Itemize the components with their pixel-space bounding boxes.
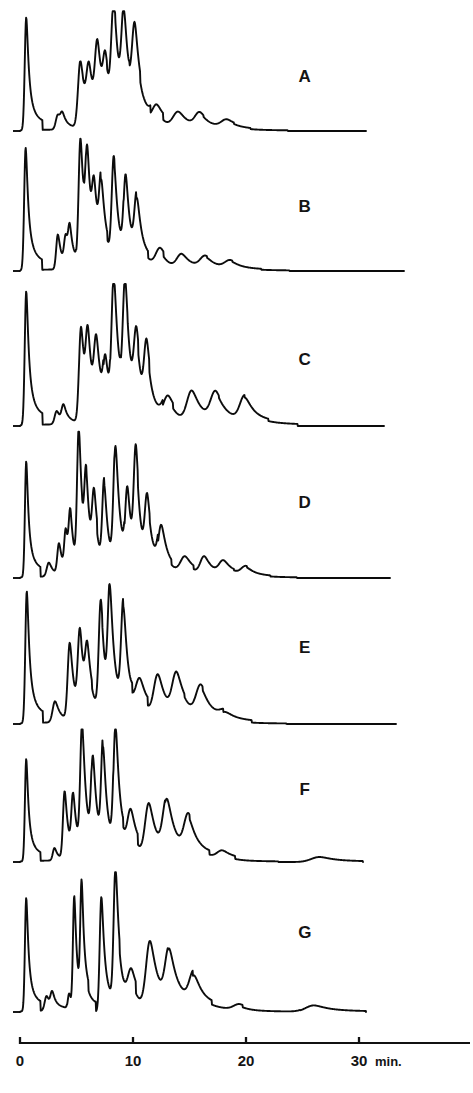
trace-line-f	[20, 730, 363, 863]
x-axis-unit-label: min.	[375, 1054, 402, 1069]
chromatogram-trace-c	[13, 284, 384, 426]
trace-line-e	[20, 584, 396, 724]
x-axis-group: 0102030min.	[16, 1037, 470, 1069]
chromatogram-svg: ABCDEFG 0102030min.	[0, 0, 473, 1093]
panel-label-a: A	[299, 67, 312, 86]
panel-label-g: G	[298, 923, 312, 942]
panel-label-c: C	[299, 350, 312, 369]
trace-line-c	[20, 284, 384, 426]
x-axis-tick-label-0: 0	[16, 1052, 24, 1069]
panel-label-b: B	[299, 197, 312, 216]
trace-line-a	[20, 11, 366, 131]
x-axis-tick-label-30: 30	[351, 1052, 368, 1069]
panel-label-d: D	[299, 493, 312, 512]
chromatogram-trace-a	[13, 11, 366, 131]
panel-label-e: E	[299, 638, 311, 657]
x-axis-tick-label-20: 20	[238, 1052, 255, 1069]
chromatogram-trace-e	[13, 584, 396, 724]
chromatogram-trace-b	[13, 139, 404, 271]
trace-line-g	[20, 872, 366, 1012]
chromatogram-figure: ABCDEFG 0102030min.	[0, 0, 473, 1093]
trace-line-d	[20, 432, 390, 578]
panel-label-f: F	[300, 780, 311, 799]
trace-line-b	[20, 139, 404, 271]
chromatogram-trace-f	[13, 730, 363, 863]
traces-group	[13, 11, 404, 1012]
chromatogram-trace-g	[13, 872, 366, 1012]
panel-labels-group: ABCDEFG	[298, 67, 312, 942]
chromatogram-trace-d	[13, 432, 390, 578]
x-axis-tick-label-10: 10	[125, 1052, 142, 1069]
